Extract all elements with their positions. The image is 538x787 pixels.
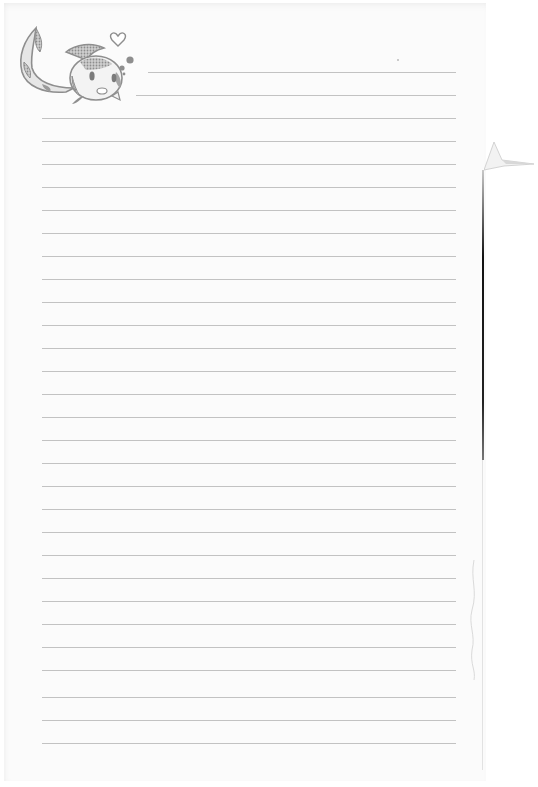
ruled-line	[42, 509, 456, 510]
ruled-line	[42, 279, 456, 280]
ruled-line	[42, 371, 456, 372]
ruled-line	[42, 578, 456, 579]
ruled-line	[42, 233, 456, 234]
fish-eye-right	[112, 74, 117, 82]
ruled-line	[42, 348, 456, 349]
ruled-line	[42, 302, 456, 303]
heart-icon	[111, 33, 126, 46]
fish-eye-left	[89, 72, 94, 81]
ruled-line	[42, 647, 456, 648]
fish-icon	[14, 22, 138, 106]
ruled-line	[42, 256, 456, 257]
ruled-line	[42, 210, 456, 211]
ruled-line	[42, 440, 456, 441]
ruled-line	[42, 743, 456, 744]
ruled-line	[42, 670, 456, 671]
fish-mouth	[97, 88, 107, 94]
ruled-line	[42, 486, 456, 487]
ruled-line	[148, 72, 456, 73]
page-edge-light	[482, 460, 483, 770]
ruled-line	[42, 555, 456, 556]
ruled-line	[42, 164, 456, 165]
ruled-line	[42, 325, 456, 326]
ruled-line	[42, 532, 456, 533]
stationery-page	[4, 3, 486, 781]
ruled-line	[136, 95, 456, 96]
ruled-line	[42, 417, 456, 418]
page-edge-shadow	[482, 170, 484, 460]
ruled-line	[42, 624, 456, 625]
torn-edge	[462, 560, 482, 680]
fish-tail	[21, 28, 74, 92]
ruled-line	[42, 720, 456, 721]
folded-corner-icon	[484, 140, 534, 172]
paper-speck	[397, 59, 399, 61]
ruled-line	[42, 697, 456, 698]
ruled-line	[42, 141, 456, 142]
ruled-line	[42, 118, 456, 119]
ruled-line	[42, 394, 456, 395]
ruled-line	[42, 187, 456, 188]
ruled-line	[42, 601, 456, 602]
ruled-line	[42, 463, 456, 464]
